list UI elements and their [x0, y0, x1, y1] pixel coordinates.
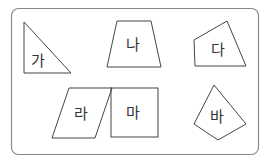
shape-label: 가 — [31, 52, 45, 70]
shape-label: 라 — [74, 105, 88, 123]
shape-label: 다 — [211, 41, 225, 59]
shape-label: 나 — [126, 36, 140, 54]
shape-label: 바 — [210, 108, 224, 126]
shapes-figure: 가 나 다 라 마 바 — [0, 0, 273, 165]
panel-border — [12, 9, 259, 155]
shape-label: 마 — [126, 104, 140, 122]
